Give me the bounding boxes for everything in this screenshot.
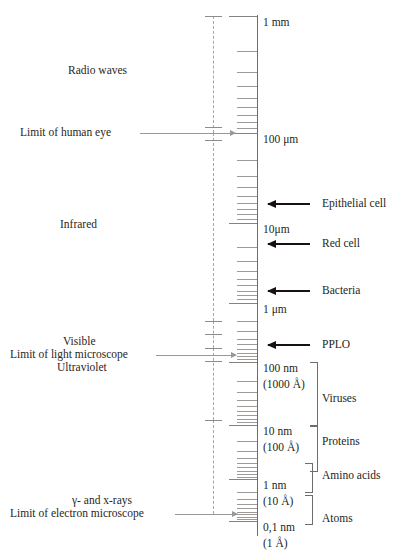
scale-value-nm10: 10 nm (263, 425, 292, 438)
ruler-tick-minor (237, 499, 257, 500)
ruler-spine (257, 15, 258, 536)
ruler-tick-minor (237, 519, 257, 520)
ruler-tick-minor (237, 299, 257, 300)
ruler-tick-major (229, 223, 257, 224)
ruler-tick-minor (237, 508, 257, 509)
ruler-tick-minor (237, 271, 257, 272)
object-label-proteins: Proteins (322, 435, 360, 448)
scale-value-a10: (10 Å) (263, 495, 293, 508)
ruler-tick-minor (237, 51, 257, 52)
scale-value-um100: 100 μm (263, 133, 298, 146)
ruler-tick-minor (237, 295, 257, 296)
cap-vis-2 (205, 334, 222, 335)
ruler-tick-minor (237, 392, 257, 393)
object-label-amino-acids: Amino acids (322, 469, 380, 482)
spectrum-label-radio: Radio waves (68, 64, 127, 77)
ruler-tick-major (229, 362, 257, 363)
object-label-atoms: Atoms (322, 512, 353, 525)
scale-value-a1: (1 Å) (263, 537, 288, 550)
ruler-tick-minor (237, 349, 257, 350)
ruler-tick-minor (237, 474, 257, 475)
cap-uv (205, 348, 222, 349)
object-label-epithelial-cell: Epithelial cell (322, 197, 386, 210)
ruler-tick-minor (237, 411, 257, 412)
ruler-tick-minor (237, 504, 257, 505)
ruler-tick-minor (237, 219, 257, 220)
ruler-tick-minor (237, 107, 257, 108)
cap-vis-1 (205, 321, 222, 322)
object-arrow-epithelial-cell (268, 203, 310, 205)
ruler-tick-minor (237, 477, 257, 478)
ruler-tick-major (229, 479, 257, 480)
ruler-tick-minor (237, 214, 257, 215)
spectrum-label-ultraviolet: Ultraviolet (57, 361, 107, 374)
ruler-tick-minor (237, 451, 257, 452)
ruler-tick-minor (237, 176, 257, 177)
ruler-tick-minor (237, 415, 257, 416)
ruler-tick-minor (237, 261, 257, 262)
cap-eye (205, 127, 222, 128)
ruler-tick-minor (237, 471, 257, 472)
object-arrow-red-cell (268, 243, 310, 245)
scale-value-nm1: 1 nm (263, 479, 286, 492)
ruler-tick-minor (237, 492, 257, 493)
ruler-tick-minor (237, 517, 257, 518)
ruler-tick-minor (237, 115, 257, 116)
ruler-tick-minor (237, 344, 257, 345)
ruler-tick-minor (237, 406, 257, 407)
ruler-tick-minor (237, 122, 257, 123)
scale-value-mm1: 1 mm (263, 16, 290, 29)
ruler-tick-minor (237, 400, 257, 401)
spectrum-label-gamma-xrays: γ- and x-rays (72, 494, 132, 507)
scale-value-a100: (100 Å) (263, 441, 299, 454)
object-arrow-bacteria (268, 290, 310, 292)
ruler-tick-minor (237, 512, 257, 513)
ruler-tick-major (229, 16, 257, 17)
pointer-arrow-electron-micro (175, 514, 237, 515)
spectrum-label-visible: Visible (63, 335, 96, 348)
ruler-tick-minor (237, 419, 257, 420)
amino-acids-bracket (305, 463, 313, 493)
spectrum-label-human-eye: Limit of human eye (20, 126, 111, 139)
ruler-tick-minor (237, 98, 257, 99)
ruler-tick-minor (237, 128, 257, 129)
ruler-tick-major (229, 425, 257, 426)
ruler-tick-minor (237, 353, 257, 354)
ruler-tick-major (229, 521, 257, 522)
cap-top (205, 16, 222, 17)
ruler-tick-minor (237, 356, 257, 357)
cap-uv-2 (205, 361, 222, 362)
ruler-tick-minor (237, 339, 257, 340)
radio-infrared-segment (213, 16, 214, 133)
ruler-tick-minor (237, 160, 257, 161)
ruler-tick-minor (237, 381, 257, 382)
ruler-tick-major (229, 303, 257, 304)
ruler-tick-minor (237, 422, 257, 423)
ruler-tick-minor (237, 247, 257, 248)
object-label-pplo: PPLO (322, 338, 350, 351)
object-label-red-cell: Red cell (322, 237, 360, 250)
atoms-bracket (305, 495, 313, 525)
xray-segment (213, 420, 214, 514)
ruler-tick-minor (237, 514, 257, 515)
ruler-tick-minor (237, 321, 257, 322)
ruler-tick-minor (237, 203, 257, 204)
ruler-tick-minor (237, 467, 257, 468)
ruler-tick-minor (237, 359, 257, 360)
viruses-bracket (310, 362, 318, 427)
ruler-tick-minor (237, 441, 257, 442)
ruler-tick-minor (237, 331, 257, 332)
ruler-tick-minor (237, 72, 257, 73)
ruler-tick-minor (237, 458, 257, 459)
scale-value-um10: 10μm (263, 223, 290, 236)
uv-segment (213, 348, 214, 420)
scale-value-a1000: (1000 Å) (263, 378, 305, 391)
scale-value-um1: 1 μm (263, 303, 287, 316)
ruler-tick-minor (237, 209, 257, 210)
object-label-bacteria: Bacteria (322, 284, 360, 297)
spectrum-label-infrared: Infrared (60, 218, 97, 231)
cap-eye-2 (205, 140, 222, 141)
pointer-arrow-human-eye (140, 133, 235, 134)
infrared-segment (213, 133, 214, 321)
object-arrow-pplo (268, 344, 310, 346)
